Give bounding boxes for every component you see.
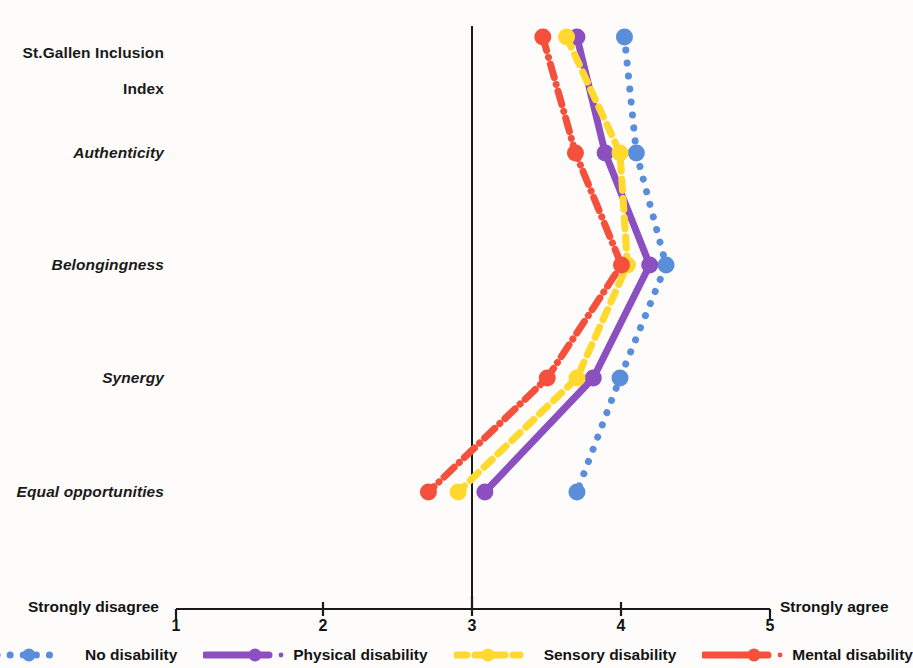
data-point — [641, 257, 658, 274]
plot-area — [0, 0, 908, 640]
data-point — [612, 145, 629, 162]
data-point — [450, 484, 467, 501]
data-point — [534, 29, 551, 46]
data-point — [539, 370, 556, 387]
x-axis-anchor-high: Strongly agree — [780, 598, 889, 616]
legend-swatch-dotted-icon — [0, 647, 79, 663]
data-point — [612, 370, 629, 387]
chart-legend: No disabilityPhysical disabilitySensory … — [0, 641, 908, 668]
data-point — [597, 145, 614, 162]
series-layer — [420, 29, 675, 501]
legend-label: No disability — [85, 646, 177, 664]
x-axis-anchor-low: Strongly disagree — [28, 598, 159, 616]
x-tick-2: 2 — [319, 617, 328, 635]
data-point — [476, 484, 493, 501]
data-point — [420, 484, 437, 501]
legend-item-sensory-disability[interactable]: Sensory disability — [454, 646, 677, 664]
legend-label: Sensory disability — [544, 646, 677, 664]
data-point — [568, 484, 585, 501]
data-point — [558, 29, 575, 46]
x-tick-1: 1 — [172, 617, 181, 635]
data-point — [568, 370, 585, 387]
legend-swatch-dashed-icon — [454, 647, 538, 663]
legend-label: Physical disability — [293, 646, 427, 664]
legend-item-mental-disability[interactable]: Mental disability — [702, 646, 913, 664]
x-tick-5: 5 — [766, 617, 775, 635]
data-point — [628, 145, 645, 162]
x-tick-3: 3 — [468, 617, 477, 635]
x-tick-4: 4 — [617, 617, 626, 635]
data-point — [658, 257, 675, 274]
legend-item-physical-disability[interactable]: Physical disability — [203, 646, 427, 664]
legend-label: Mental disability — [792, 646, 913, 664]
x-axis — [176, 596, 770, 619]
legend-swatch-solid-icon — [203, 647, 287, 663]
data-point — [567, 145, 584, 162]
data-point — [616, 29, 633, 46]
legend-swatch-dashdot-icon — [702, 647, 786, 663]
data-point — [613, 257, 630, 274]
legend-item-no-disability[interactable]: No disability — [0, 646, 177, 664]
data-point — [585, 370, 602, 387]
